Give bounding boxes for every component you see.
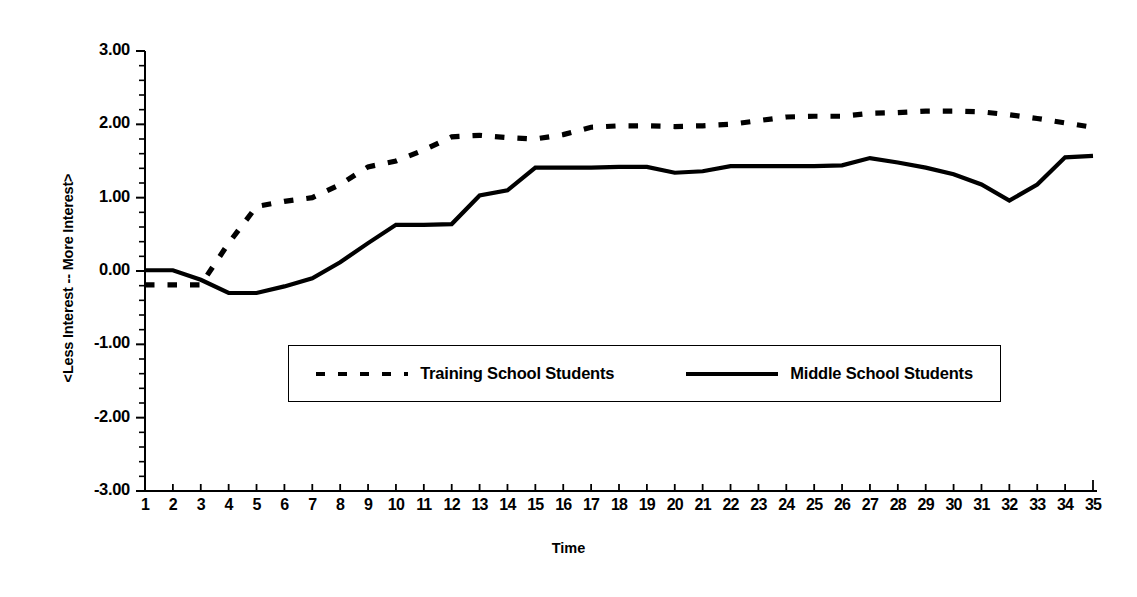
data-series-group: [145, 111, 1093, 293]
x-axis-title: Time: [0, 540, 1137, 556]
legend-dashed-line-icon: [316, 372, 408, 376]
legend-entry: Training School Students: [316, 364, 614, 383]
legend-label: Training School Students: [420, 364, 614, 383]
legend-solid-line-icon: [686, 372, 778, 376]
y-axis-tick-label: 3.00: [50, 40, 130, 59]
series-line-1: [145, 156, 1093, 293]
axes-group: [136, 51, 1097, 491]
y-axis-title: <Less Interest -- More Interest>: [60, 78, 76, 478]
y-axis-tick-label: -3.00: [50, 480, 130, 499]
series-line-0: [145, 111, 1093, 285]
x-axis-tick-label: 35: [1076, 496, 1110, 514]
legend-entry: Middle School Students: [686, 364, 973, 383]
legend-label: Middle School Students: [790, 364, 973, 383]
chart-legend: Training School StudentsMiddle School St…: [288, 345, 1001, 402]
chart-container: 3.002.001.000.00-1.00-2.00-3.00 12345678…: [0, 0, 1137, 597]
